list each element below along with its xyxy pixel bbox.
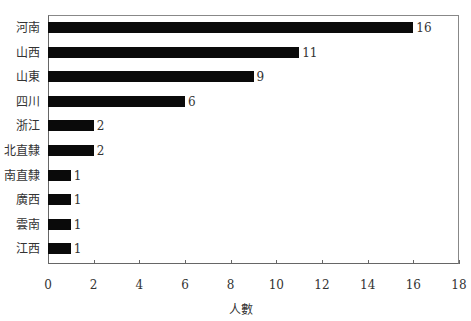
category-label: 雲南 (16, 218, 40, 232)
category-label: 南直隸 (4, 169, 40, 183)
category-label: 北直隸 (4, 144, 40, 158)
x-tick-label: 8 (216, 278, 246, 292)
x-tick-label: 6 (170, 278, 200, 292)
category-label: 江西 (16, 242, 40, 256)
bar (48, 170, 71, 181)
category-label: 廣西 (16, 193, 40, 207)
x-tick-mark (139, 260, 140, 264)
x-tick-label: 10 (261, 278, 291, 292)
value-label: 2 (97, 144, 105, 158)
value-label: 1 (74, 218, 82, 232)
bar (48, 47, 299, 58)
x-tick-mark (94, 260, 95, 264)
value-label: 2 (97, 119, 105, 133)
value-label: 1 (74, 169, 82, 183)
category-label: 山東 (16, 70, 40, 84)
bar (48, 145, 94, 156)
x-tick-label: 18 (444, 278, 471, 292)
category-label: 四川 (16, 95, 40, 109)
value-label: 16 (416, 21, 431, 35)
category-label: 浙江 (16, 119, 40, 133)
x-tick-label: 16 (398, 278, 428, 292)
bar (48, 243, 71, 254)
x-tick-mark (48, 260, 49, 264)
value-label: 1 (74, 193, 82, 207)
bar (48, 120, 94, 131)
bar (48, 194, 71, 205)
x-tick-label: 4 (124, 278, 154, 292)
bar (48, 71, 254, 82)
x-tick-mark (459, 260, 460, 264)
x-tick-mark (322, 260, 323, 264)
x-tick-label: 12 (307, 278, 337, 292)
x-tick-label: 2 (79, 278, 109, 292)
category-label: 河南 (16, 21, 40, 35)
bar (48, 22, 413, 33)
x-tick-mark (185, 260, 186, 264)
value-label: 6 (188, 95, 196, 109)
x-tick-label: 0 (33, 278, 63, 292)
x-tick-mark (413, 260, 414, 264)
bar-chart: 河南山西山東四川浙江北直隸南直隸廣西雲南江西 161196221111 0246… (0, 0, 471, 321)
x-tick-mark (231, 260, 232, 264)
value-label: 11 (302, 46, 317, 60)
bar (48, 96, 185, 107)
value-label: 9 (257, 70, 265, 84)
category-label: 山西 (16, 46, 40, 60)
x-axis-label: 人數 (229, 300, 253, 317)
x-tick-mark (368, 260, 369, 264)
x-tick-mark (276, 260, 277, 264)
value-label: 1 (74, 242, 82, 256)
x-tick-label: 14 (353, 278, 383, 292)
bar (48, 219, 71, 230)
